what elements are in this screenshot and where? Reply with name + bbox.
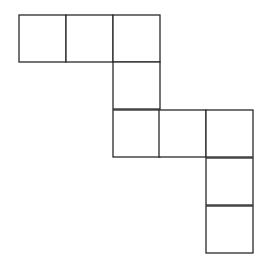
net-square-1 (19, 15, 66, 62)
net-square-6 (159, 110, 206, 157)
square-net-diagram (0, 0, 269, 265)
net-square-9 (206, 206, 253, 253)
net-square-7 (206, 110, 253, 157)
net-square-5 (113, 110, 160, 157)
net-square-8 (206, 158, 253, 205)
net-square-3 (113, 15, 160, 62)
net-square-2 (66, 15, 113, 62)
net-square-4 (113, 62, 160, 109)
